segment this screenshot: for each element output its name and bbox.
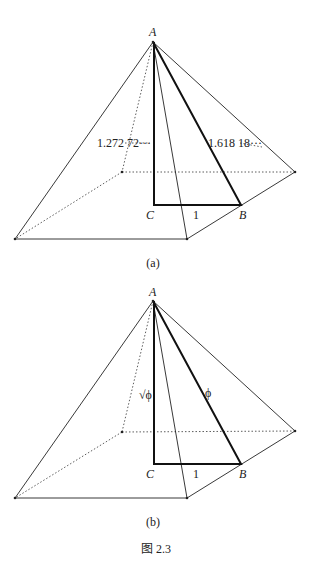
panel-b: A C B 1 √ϕ ϕ (b) [14, 285, 297, 529]
lateral-edge-right [153, 301, 295, 431]
triangle-ACB [153, 301, 241, 464]
point-label-A: A [148, 25, 157, 39]
point-label-C: C [146, 208, 155, 222]
base-length-label: 1 [193, 467, 199, 481]
height-value-label: 1.272 72··· [97, 136, 151, 150]
point-label-B: B [239, 467, 247, 481]
triangle-ACB [153, 42, 241, 205]
point-label-A: A [148, 285, 157, 299]
point-label-C: C [146, 467, 155, 481]
slant-height-symbol-label: ϕ [205, 386, 211, 400]
base-length-label: 1 [193, 208, 199, 222]
hidden-lateral-edge [122, 42, 153, 172]
hidden-base-edge-left [15, 172, 122, 239]
point-label-B: B [239, 208, 247, 222]
hidden-base-edge-back [122, 431, 295, 432]
hidden-base-edge-left [15, 432, 122, 498]
panel-a-caption: (a) [146, 256, 159, 270]
pyramid-figure: A C B 1 1.272 72··· 1.618 18··· (a) [0, 0, 315, 572]
lateral-edge-right [153, 42, 295, 172]
panel-b-caption: (b) [146, 515, 160, 529]
panel-a: A C B 1 1.272 72··· 1.618 18··· (a) [14, 25, 297, 270]
hidden-lateral-edge [122, 301, 153, 432]
figure-caption: 图 2.3 [141, 542, 171, 556]
slant-height-value-label: 1.618 18··· [208, 136, 262, 150]
lateral-edge-left [15, 301, 153, 498]
height-symbol-label: √ϕ [139, 388, 152, 402]
